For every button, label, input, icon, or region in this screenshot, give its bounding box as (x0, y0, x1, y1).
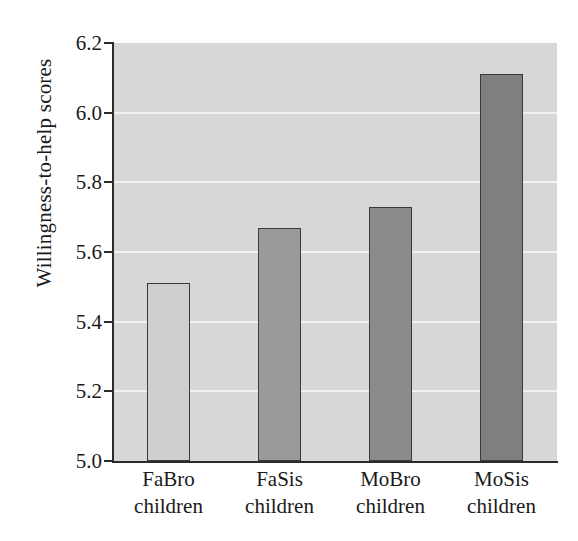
x-tick-label-line1: MoSis (474, 467, 529, 491)
y-tick-label: 6.0 (40, 103, 102, 124)
bar (258, 228, 301, 461)
x-axis-tick-labels: FaBro children FaSis children MoBro chil… (113, 466, 557, 538)
y-axis-tick-labels: 6.2 6.0 5.8 5.6 5.4 5.2 5.0 (40, 0, 102, 541)
bar (369, 207, 412, 461)
x-tick-label-line2: children (427, 493, 577, 520)
y-axis-line (112, 43, 114, 462)
x-tick-label-line1: FaSis (256, 467, 303, 491)
y-tick-label: 5.6 (40, 242, 102, 263)
y-tick-label: 5.2 (40, 381, 102, 402)
x-tick-label-line1: MoBro (360, 467, 421, 491)
bar (480, 74, 523, 461)
bar-chart-figure: Willingness-to-help scores 6.2 6.0 5.8 5… (0, 0, 578, 541)
y-tick-label: 5.4 (40, 312, 102, 333)
y-tick-label: 6.2 (40, 33, 102, 54)
y-tick-label: 5.8 (40, 172, 102, 193)
bar (147, 283, 190, 461)
plot-area (113, 43, 557, 461)
x-tick-label-mosis: MoSis children (427, 466, 577, 520)
x-tick-label-line1: FaBro (142, 467, 195, 491)
x-axis-line (112, 461, 558, 463)
